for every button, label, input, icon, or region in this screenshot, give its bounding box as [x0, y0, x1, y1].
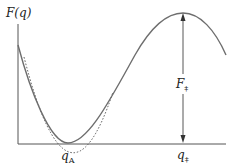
barrier-label: F‡: [175, 77, 188, 93]
y-axis-label: F(q): [5, 6, 32, 20]
free-energy-curve: [18, 13, 226, 143]
x-label-q-dagger: q‡: [177, 148, 189, 164]
x-label-qA: qA: [61, 149, 75, 165]
free-energy-diagram: F(q) F‡ qA q‡: [0, 0, 238, 168]
arrow-head-down-icon: [181, 135, 186, 143]
arrow-head-up-icon: [181, 13, 186, 21]
